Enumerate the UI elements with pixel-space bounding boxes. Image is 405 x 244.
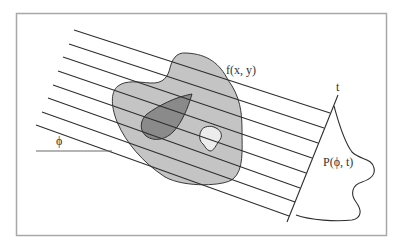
angle-label: ϕ <box>56 134 62 148</box>
object-label: f(x, y) <box>226 63 256 77</box>
projection-label: P(ϕ, t) <box>323 155 353 169</box>
projection-diagram: f(x, y) t ϕ P(ϕ, t) <box>0 0 405 244</box>
